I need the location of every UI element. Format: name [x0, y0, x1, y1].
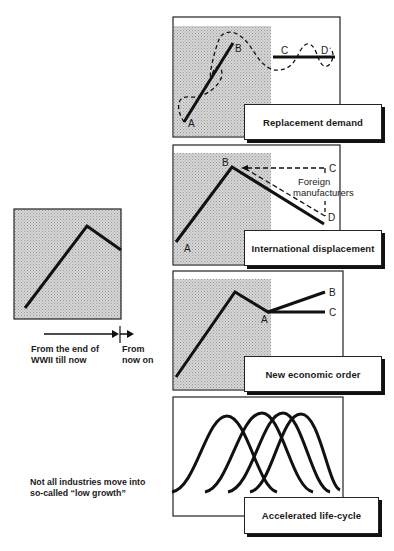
- low-growth-note: Not all industries move into so-called “…: [30, 477, 145, 499]
- panel-title-text: International displacement: [252, 243, 375, 254]
- point-label-a: A: [188, 119, 195, 129]
- point-label-c: C: [281, 46, 288, 56]
- panel-title-new-economic-order: New economic order: [244, 356, 382, 392]
- point-label-b: B: [329, 288, 336, 298]
- panel-title-text: Replacement demand: [263, 117, 363, 128]
- point-label-a: A: [261, 315, 268, 325]
- caption-line: From the end of: [31, 344, 99, 355]
- caption-line: WWII till now: [31, 355, 99, 366]
- note-line: so-called “low growth”: [30, 488, 145, 499]
- annotation-line: Foreign: [298, 176, 342, 187]
- point-label-b: B: [235, 44, 242, 54]
- point-label-d: D: [321, 46, 328, 56]
- timeline-future-caption: From now on: [122, 344, 154, 366]
- caption-line: now on: [122, 355, 154, 366]
- note-line: Not all industries move into: [30, 477, 145, 488]
- panel-title-text: Accelerated life-cycle: [262, 510, 361, 521]
- caption-line: From: [122, 344, 154, 355]
- panel-title-accelerated-life-cycle: Accelerated life-cycle: [244, 497, 379, 534]
- point-label-c: C: [329, 308, 336, 318]
- point-label-a: A: [184, 244, 191, 254]
- panel-title-replacement-demand: Replacement demand: [244, 104, 382, 140]
- panel-title-international-displacement: International displacement: [244, 230, 382, 266]
- panel-title-text: New economic order: [265, 369, 360, 380]
- timeline-arrows: [44, 326, 134, 343]
- point-label-d: D: [328, 213, 335, 223]
- diagram-canvas: [0, 0, 394, 551]
- foreign-manufacturers-annotation: Foreign: [298, 176, 342, 187]
- point-label-b: B: [222, 158, 229, 168]
- overview-chart: [14, 209, 121, 319]
- timeline-past-caption: From the end of WWII till now: [31, 344, 99, 366]
- annotation-line: manufacturers: [293, 187, 354, 198]
- foreign-manufacturers-annotation-2: manufacturers: [293, 187, 354, 198]
- point-label-c: C: [329, 164, 336, 174]
